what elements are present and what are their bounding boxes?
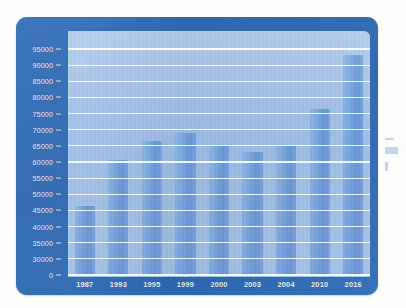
- y-axis-tick-label: 60000: [33, 158, 54, 167]
- y-axis-tick-label: 40000: [33, 222, 54, 231]
- bar: [175, 133, 195, 275]
- gridline: [68, 210, 370, 211]
- gridline: [68, 178, 370, 179]
- gridline: [68, 97, 370, 98]
- y-axis-tick-mark: [56, 258, 61, 259]
- gridline: [68, 226, 370, 227]
- page-margin-artifact: [385, 138, 406, 180]
- y-axis-tick-mark: [56, 145, 61, 146]
- bar: [75, 206, 95, 275]
- chart-card: 9500090000850008000075000700006500060000…: [16, 17, 378, 295]
- gridline: [68, 161, 370, 162]
- x-axis-tick-label: 2016: [345, 280, 362, 289]
- y-axis-tick-mark: [56, 162, 61, 163]
- y-axis-tick-label: 0: [49, 271, 53, 280]
- y-axis: 9500090000850008000075000700006500060000…: [16, 39, 63, 277]
- y-axis-tick-mark: [56, 226, 61, 227]
- x-axis-tick-label: 2010: [311, 280, 328, 289]
- y-axis-tick-mark: [56, 210, 61, 211]
- y-axis-tick-mark: [56, 81, 61, 82]
- y-axis-tick-label: 55000: [33, 174, 54, 183]
- y-axis-tick-mark: [56, 129, 61, 130]
- gridline: [68, 113, 370, 114]
- margin-mark-2: [385, 147, 398, 154]
- x-axis-tick-label: 2004: [277, 280, 294, 289]
- bar: [242, 152, 262, 275]
- x-axis-tick-label: 1987: [76, 280, 93, 289]
- gridline: [68, 145, 370, 146]
- y-axis-tick-mark: [56, 178, 61, 179]
- y-axis-tick-label: 95000: [33, 45, 54, 54]
- gridline: [68, 258, 370, 259]
- gridline: [68, 274, 370, 275]
- y-axis-tick-label: 70000: [33, 125, 54, 134]
- y-axis-tick-label: 30000: [33, 254, 54, 263]
- gridline: [68, 242, 370, 243]
- y-axis-tick-mark: [56, 194, 61, 195]
- gridline: [68, 65, 370, 66]
- y-axis-tick-mark: [56, 275, 61, 276]
- gridline: [68, 194, 370, 195]
- x-axis-tick-label: 2003: [244, 280, 261, 289]
- bar: [310, 109, 330, 275]
- x-axis-tick-label: 1995: [143, 280, 160, 289]
- y-axis-tick-label: 90000: [33, 61, 54, 70]
- y-axis-tick-label: 85000: [33, 77, 54, 86]
- y-axis-tick-label: 50000: [33, 190, 54, 199]
- gridline: [68, 129, 370, 130]
- gridline: [68, 81, 370, 82]
- y-axis-tick-label: 65000: [33, 141, 54, 150]
- y-axis-tick-mark: [56, 113, 61, 114]
- x-axis-tick-label: 1999: [177, 280, 194, 289]
- y-axis-tick-label: 75000: [33, 109, 54, 118]
- y-axis-tick-mark: [56, 242, 61, 243]
- x-axis-tick-label: 2000: [210, 280, 227, 289]
- bar-group: [68, 31, 370, 277]
- margin-mark-3: [385, 162, 388, 171]
- plot-area: [68, 31, 370, 277]
- y-axis-tick-label: 80000: [33, 93, 54, 102]
- gridline: [68, 48, 370, 49]
- y-axis-tick-label: 35000: [33, 238, 54, 247]
- y-axis-tick-label: 45000: [33, 206, 54, 215]
- y-axis-tick-mark: [56, 65, 61, 66]
- y-axis-tick-mark: [56, 49, 61, 50]
- x-axis-tick-label: 1993: [110, 280, 127, 289]
- x-axis: 198719931995199920002003200420102016: [68, 277, 370, 295]
- margin-mark-1: [385, 138, 394, 140]
- y-axis-tick-mark: [56, 97, 61, 98]
